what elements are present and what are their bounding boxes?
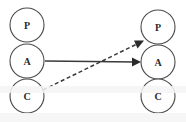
node-right-a[interactable]: A <box>141 45 175 79</box>
node-label: P <box>155 22 161 33</box>
edge-left-a-to-right-a <box>45 61 136 62</box>
node-label: C <box>23 91 30 102</box>
node-label: A <box>154 57 162 68</box>
edge-left-c-to-right-p <box>43 44 138 91</box>
node-left-p[interactable]: P <box>10 8 44 42</box>
right-column: P A C <box>141 10 175 113</box>
diagram-canvas: P A C P A C <box>0 0 186 122</box>
node-left-a[interactable]: A <box>10 44 44 78</box>
left-column: P A C <box>10 8 44 113</box>
node-right-p[interactable]: P <box>141 10 175 44</box>
arrowhead-solid-into-right-a <box>132 58 141 67</box>
node-left-c[interactable]: C <box>10 79 44 113</box>
node-label: C <box>154 91 161 102</box>
node-right-c[interactable]: C <box>141 79 175 113</box>
arrowhead-dashed-into-right-p <box>134 41 144 49</box>
node-diagram: P A C P A C <box>0 0 186 122</box>
node-label: P <box>24 20 30 31</box>
node-label: A <box>23 56 31 67</box>
edge-layer <box>43 41 144 91</box>
